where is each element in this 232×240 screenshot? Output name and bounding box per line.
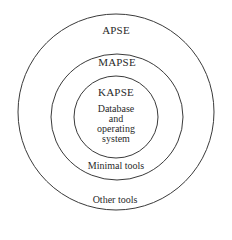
core-label: Database and operating system	[97, 104, 135, 144]
apse-label: APSE	[102, 24, 130, 36]
kapse-label: KAPSE	[98, 86, 134, 98]
mapse-label: MAPSE	[98, 56, 136, 68]
core-label-line-4: system	[97, 134, 135, 144]
minimal-tools-label: Minimal tools	[88, 161, 144, 171]
other-tools-label: Other tools	[93, 195, 138, 205]
